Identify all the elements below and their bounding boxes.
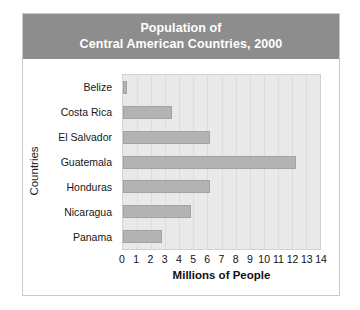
x-axis-tick-label: 13 bbox=[301, 253, 313, 265]
bar-row bbox=[123, 224, 320, 249]
x-axis-label: Millions of People bbox=[122, 269, 321, 281]
gridline bbox=[320, 75, 321, 249]
plot-area bbox=[122, 74, 321, 250]
bar bbox=[123, 106, 172, 119]
x-axis-tick-label: 1 bbox=[133, 253, 139, 265]
x-axis-tick-labels: 01234567891011121314 bbox=[122, 253, 321, 269]
chart-title-line-2: Central American Countries, 2000 bbox=[80, 37, 283, 52]
x-axis-tick-label: 12 bbox=[287, 253, 299, 265]
y-axis-tick-labels: BelizeCosta RicaEl SalvadorGuatemalaHond… bbox=[41, 74, 117, 250]
y-axis-tick-label: El Salvador bbox=[41, 124, 117, 149]
bar-row bbox=[123, 199, 320, 224]
x-axis-tick-label: 10 bbox=[258, 253, 270, 265]
y-axis-tick-label: Honduras bbox=[41, 175, 117, 200]
x-axis-tick-label: 5 bbox=[190, 253, 196, 265]
x-axis-tick-label: 9 bbox=[247, 253, 253, 265]
y-axis-tick-label: Costa Rica bbox=[41, 99, 117, 124]
bar-series bbox=[123, 75, 320, 249]
bar-row bbox=[123, 125, 320, 150]
y-axis-tick-label: Panama bbox=[41, 225, 117, 250]
bar-row bbox=[123, 174, 320, 199]
bar bbox=[123, 81, 127, 94]
bar bbox=[123, 205, 191, 218]
x-axis-tick-label: 2 bbox=[148, 253, 154, 265]
y-axis-tick-label: Nicaragua bbox=[41, 200, 117, 225]
bar bbox=[123, 180, 210, 193]
bar bbox=[123, 156, 296, 169]
x-axis-tick-label: 0 bbox=[119, 253, 125, 265]
chart-figure: Population ofCentral American Countries,… bbox=[22, 13, 340, 296]
chart-title-line-1: Population of bbox=[140, 21, 221, 36]
x-axis-tick-label: 4 bbox=[176, 253, 182, 265]
y-axis-tick-label: Belize bbox=[41, 74, 117, 99]
x-axis-tick-label: 8 bbox=[233, 253, 239, 265]
y-axis-tick-label: Guatemala bbox=[41, 149, 117, 174]
bar bbox=[123, 230, 162, 243]
x-axis-tick-label: 7 bbox=[219, 253, 225, 265]
chart-title-banner: Population ofCentral American Countries,… bbox=[23, 14, 339, 59]
bar-row bbox=[123, 150, 320, 175]
chart-body: Countries BelizeCosta RicaEl SalvadorGua… bbox=[23, 59, 339, 295]
x-axis-tick-label: 14 bbox=[315, 253, 327, 265]
x-axis-tick-label: 11 bbox=[273, 253, 284, 265]
bar-row bbox=[123, 75, 320, 100]
x-axis-tick-label: 3 bbox=[162, 253, 168, 265]
bar bbox=[123, 131, 210, 144]
bar-row bbox=[123, 100, 320, 125]
x-axis-tick-label: 6 bbox=[204, 253, 210, 265]
y-axis-label-text: Countries bbox=[28, 146, 40, 195]
